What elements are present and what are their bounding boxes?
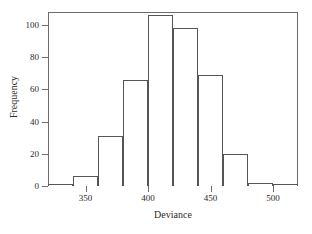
histogram-bar xyxy=(98,136,123,186)
x-axis-tick xyxy=(86,186,87,192)
y-axis-tick xyxy=(42,186,48,187)
x-axis-tick xyxy=(211,186,212,192)
y-axis-tick xyxy=(42,89,48,90)
histogram-bar xyxy=(148,15,173,186)
histogram-bar xyxy=(123,80,148,186)
x-axis-tick-label: 350 xyxy=(66,194,106,203)
histogram-bar xyxy=(273,184,298,186)
y-axis-tick-label: 20 xyxy=(13,150,39,159)
y-axis-tick xyxy=(42,25,48,26)
histogram-bar xyxy=(248,183,273,186)
x-axis-tick-label: 500 xyxy=(253,194,293,203)
y-axis-tick-label: 100 xyxy=(13,21,39,30)
y-axis-title: Frequency xyxy=(9,47,19,147)
histogram-bar xyxy=(73,176,98,186)
x-axis-title: Deviance xyxy=(48,210,298,220)
y-axis-tick xyxy=(42,122,48,123)
x-axis-tick-label: 400 xyxy=(128,194,168,203)
x-axis-tick xyxy=(273,186,274,192)
histogram-bar xyxy=(198,75,223,186)
histogram-bar xyxy=(173,28,198,186)
histogram-figure: 020406080100350400450500 Deviance Freque… xyxy=(0,0,312,234)
histogram-bars xyxy=(48,12,298,186)
x-axis-tick xyxy=(148,186,149,192)
y-axis-tick xyxy=(42,154,48,155)
histogram-bar xyxy=(223,154,248,186)
histogram-bar xyxy=(48,184,73,186)
y-axis-tick-label: 0 xyxy=(13,182,39,191)
y-axis-tick xyxy=(42,57,48,58)
x-axis-tick-label: 450 xyxy=(191,194,231,203)
